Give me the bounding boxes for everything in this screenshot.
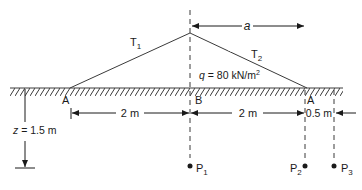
label-dim-offset: 0.5 m	[306, 107, 333, 119]
label-T1: T1	[130, 36, 142, 51]
label-B: B	[195, 94, 202, 106]
point-P2: P2	[290, 162, 308, 177]
label-q-load: q = 80 kN/m2	[199, 69, 260, 81]
label-A-left: A	[62, 94, 70, 106]
label-dim-AB: 2 m	[121, 107, 139, 119]
diagram-canvas: a T1 T2 q = 80 kN/m2 A B A 2 m 2 m 0.5 m…	[0, 0, 362, 190]
svg-text:P3: P3	[341, 162, 353, 177]
label-z: z = 1.5 m	[12, 124, 57, 136]
dimension-B-A: 2 m	[191, 107, 304, 119]
point-P1: P1	[188, 162, 209, 177]
dimension-a: a	[192, 19, 304, 33]
svg-text:P1: P1	[196, 162, 208, 177]
svg-text:P2: P2	[290, 162, 302, 177]
label-A-right: A	[307, 94, 315, 106]
point-P3: P3	[332, 162, 354, 177]
label-T2: T2	[251, 48, 263, 63]
label-a: a	[244, 19, 251, 33]
dimension-A-B: 2 m	[71, 107, 189, 119]
load-diagram: a T1 T2 q = 80 kN/m2 A B A 2 m 2 m 0.5 m…	[0, 0, 362, 190]
label-dim-BA: 2 m	[239, 107, 257, 119]
dimension-offset: 0.5 m	[306, 107, 356, 119]
dimension-depth-z: z = 1.5 m	[12, 89, 57, 168]
triangular-load	[70, 33, 307, 88]
ground-surface	[10, 88, 343, 96]
